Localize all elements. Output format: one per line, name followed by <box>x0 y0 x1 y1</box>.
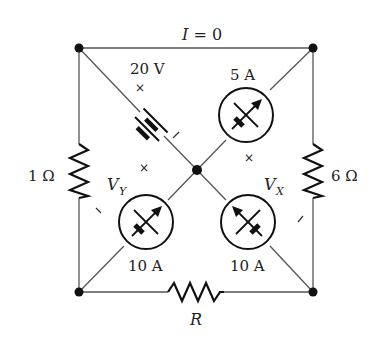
top-current-label: I = 0 <box>181 25 222 44</box>
ammeter-bottom-left <box>119 195 173 249</box>
resistor-bottom-label: R <box>189 310 202 329</box>
diag-br-meter-to-corner <box>270 246 313 292</box>
minus-mark <box>298 216 303 222</box>
diag-bl-meter-to-corner <box>79 246 124 292</box>
ammeter-bottom-left-label: 10 A <box>128 257 163 275</box>
ammeter-top-right <box>219 88 273 142</box>
ammeter-top-right-label: 5 A <box>230 66 255 84</box>
circuit-diagram: 20 V 1 Ω 6 Ω R 5 A 10 A V Y <box>0 0 384 341</box>
plus-mark: × <box>139 161 149 175</box>
resistor-left-icon <box>70 144 88 198</box>
diag-tr-to-meter <box>270 48 313 90</box>
current-value: = 0 <box>188 25 222 44</box>
ammeter-bottom-right <box>221 195 275 249</box>
diag-center-to-bl-meter <box>168 170 197 200</box>
node-top-right <box>309 44 318 53</box>
battery-icon <box>131 108 168 145</box>
polarity-marks: × × × <box>96 81 303 222</box>
plus-mark: × <box>244 151 254 165</box>
resistor-bottom-icon <box>168 283 224 301</box>
resistor-left-label: 1 Ω <box>28 167 55 185</box>
voltage-y-subscript: Y <box>119 185 128 198</box>
minus-mark <box>173 132 179 138</box>
diag-tl-to-battery <box>79 48 140 112</box>
diag-battery-to-center <box>164 136 197 170</box>
diag-meter-to-center <box>197 140 226 170</box>
plus-mark: × <box>135 81 145 95</box>
diag-center-to-br-meter <box>197 170 226 200</box>
minus-mark <box>96 208 101 213</box>
battery-label: 20 V <box>130 60 166 78</box>
ammeter-bottom-right-label: 10 A <box>230 257 265 275</box>
node-center <box>192 165 202 175</box>
voltage-x-subscript: X <box>275 185 285 198</box>
node-top-left <box>75 44 84 53</box>
resistor-right-icon <box>304 144 322 198</box>
resistor-right-label: 6 Ω <box>331 167 358 185</box>
node-bottom-right <box>309 288 318 297</box>
node-bottom-left <box>75 288 84 297</box>
